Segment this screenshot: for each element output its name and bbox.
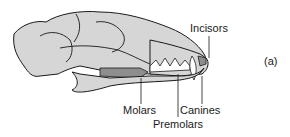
premolars-label: Premolars: [153, 118, 203, 130]
skull-diagram: Incisors (a) Molars Canines Premolars: [0, 0, 290, 137]
molars-label: Molars: [123, 104, 156, 116]
incisors-label: Incisors: [190, 22, 228, 34]
panel-label: (a): [264, 55, 277, 67]
canines-label: Canines: [180, 104, 220, 116]
skull-illustration: [0, 0, 290, 137]
